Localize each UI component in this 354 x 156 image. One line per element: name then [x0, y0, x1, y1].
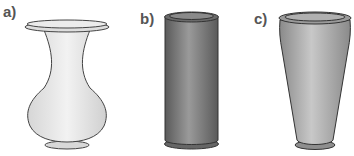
vases-illustration	[0, 0, 354, 156]
vase-a	[25, 20, 109, 149]
vase-c	[279, 12, 351, 150]
vase-b	[165, 12, 219, 149]
